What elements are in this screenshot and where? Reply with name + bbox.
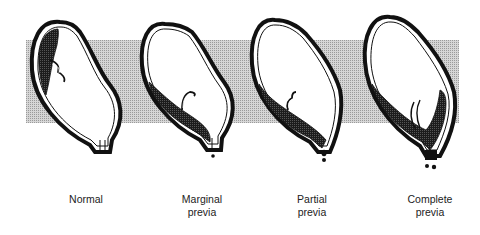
uterus-complete-previa	[365, 17, 455, 169]
label-normal: Normal	[41, 193, 131, 206]
placenta-previa-diagram: Normal Marginal previa Partial previa Co…	[0, 0, 480, 235]
label-partial-previa: Partial previa	[267, 193, 357, 219]
label-complete-previa: Complete previa	[385, 193, 475, 219]
label-marginal-previa: Marginal previa	[157, 193, 247, 219]
